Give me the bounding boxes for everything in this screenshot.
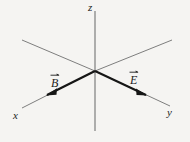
vector-label-E-text: E: [130, 73, 137, 87]
axis-label-x: x: [13, 110, 18, 121]
vector-label-B-wrap: B: [51, 74, 58, 89]
figure-canvas: z x y B E: [0, 0, 190, 142]
axis-line-negative-y: [22, 40, 95, 71]
vector-label-E-wrap: E: [130, 71, 137, 86]
vector-label-B: B: [51, 74, 58, 89]
axis-label-y: y: [167, 107, 172, 118]
vector-label-E: E: [130, 71, 137, 86]
axes-diagram-svg: [0, 0, 190, 142]
vector-label-B-text: B: [51, 76, 58, 90]
axis-line-negative-x: [95, 40, 172, 71]
axis-label-z: z: [88, 2, 92, 13]
